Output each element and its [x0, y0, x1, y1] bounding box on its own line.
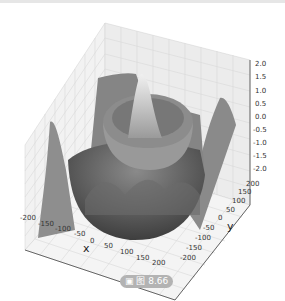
svg-text:y: y: [227, 220, 234, 233]
svg-text:0.5: 0.5: [255, 100, 266, 108]
svg-text:200: 200: [152, 259, 165, 267]
svg-text:150: 150: [136, 254, 149, 262]
svg-text:-1.5: -1.5: [253, 152, 267, 160]
svg-text:50: 50: [226, 206, 235, 214]
svg-text:100: 100: [120, 248, 133, 256]
z-axis-ticks: 2.0 1.5 1.0 0.5 0.0 -0.5 -1.0 -1.5 -2.0: [253, 60, 267, 173]
figure-caption-label: 图 8.66: [136, 276, 168, 286]
svg-text:-150: -150: [38, 220, 54, 228]
svg-text:-50: -50: [74, 230, 85, 238]
svg-text:1.0: 1.0: [255, 87, 266, 95]
svg-text:50: 50: [104, 242, 113, 250]
surface-plot: 2.0 1.5 1.0 0.5 0.0 -0.5 -1.0 -1.5 -2.0 …: [0, 0, 285, 301]
image-icon: ▣: [125, 276, 134, 286]
svg-text:-100: -100: [55, 225, 71, 233]
figure-caption-badge: ▣ 图 8.66: [120, 275, 173, 288]
svg-text:x: x: [83, 242, 90, 255]
svg-text:100: 100: [232, 197, 245, 205]
svg-text:-1.0: -1.0: [253, 139, 267, 147]
svg-text:-2.0: -2.0: [253, 165, 267, 173]
svg-text:0: 0: [90, 237, 94, 245]
svg-text:-150: -150: [186, 244, 202, 252]
svg-text:-200: -200: [180, 254, 196, 262]
svg-text:2.0: 2.0: [255, 60, 266, 68]
svg-text:200: 200: [246, 180, 259, 188]
svg-text:1.5: 1.5: [255, 73, 266, 81]
svg-text:0: 0: [218, 214, 222, 222]
svg-text:150: 150: [238, 188, 251, 196]
svg-text:-100: -100: [195, 234, 211, 242]
svg-text:-200: -200: [20, 214, 36, 222]
svg-text:0.0: 0.0: [255, 113, 266, 121]
svg-text:-0.5: -0.5: [253, 126, 267, 134]
svg-text:-50: -50: [203, 224, 214, 232]
